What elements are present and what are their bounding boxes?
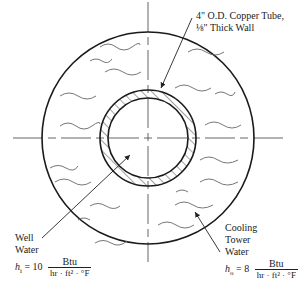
- well-water-line2: Water: [15, 244, 91, 256]
- cooling-water-line2: Tower: [225, 234, 298, 246]
- coef-value: = 8: [234, 263, 250, 274]
- unit-numerator: Btu: [255, 258, 298, 270]
- unit-fraction: Btu hr · ft² · °F: [48, 256, 91, 279]
- cooling-water-coefficient: ho = 8 Btu hr · ft² · °F: [225, 258, 298, 281]
- unit-numerator: Btu: [48, 256, 91, 268]
- well-water-label: Well Water hi = 10 Btu hr · ft² · °F: [15, 232, 91, 279]
- tube-leader: [161, 18, 192, 88]
- cooling-water-line3: Water: [225, 246, 298, 258]
- tube-label-line1: 4" O.D. Copper Tube,: [196, 10, 284, 22]
- coef-value: = 10: [22, 261, 43, 272]
- unit-denominator: hr · ft² · °F: [255, 270, 298, 281]
- unit-denominator: hr · ft² · °F: [48, 268, 91, 279]
- cooling-water-leader: [195, 212, 220, 252]
- tube-label: 4" O.D. Copper Tube, ⅛" Thick Wall: [196, 10, 284, 34]
- well-water-line1: Well: [15, 232, 91, 244]
- unit-fraction: Btu hr · ft² · °F: [255, 258, 298, 281]
- cooling-water-label: Cooling Tower Water ho = 8 Btu hr · ft² …: [225, 222, 298, 281]
- tube-label-line2: ⅛" Thick Wall: [196, 22, 284, 34]
- water-waves: [50, 43, 241, 245]
- well-water-leader: [42, 155, 130, 238]
- well-water-coefficient: hi = 10 Btu hr · ft² · °F: [15, 256, 91, 279]
- cooling-water-line1: Cooling: [225, 222, 298, 234]
